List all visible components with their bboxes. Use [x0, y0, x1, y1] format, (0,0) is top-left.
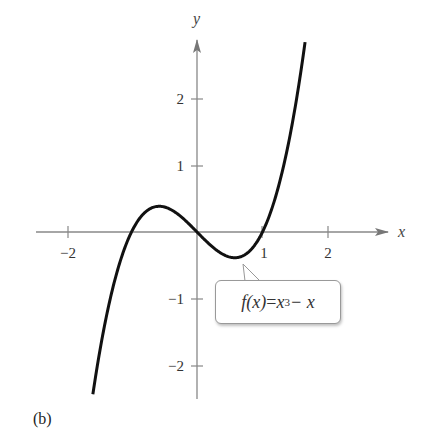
callout-rest: − x: [290, 292, 315, 313]
x-tick-label: 1: [260, 245, 268, 261]
x-tick-label: −2: [60, 245, 76, 261]
callout-lhs: f(x): [241, 292, 266, 313]
y-tick-label: −1: [168, 291, 184, 307]
y-axis-label: y: [191, 10, 201, 28]
y-tick-label: −2: [168, 358, 184, 374]
function-curve: [93, 42, 305, 394]
callout-pointer: [243, 264, 260, 281]
x-axis-label: x: [397, 223, 405, 240]
y-tick-label: 2: [177, 91, 185, 107]
function-graph: −2 1 2 2 1 −1 −2 x y: [0, 0, 429, 441]
callout-equals: =: [266, 292, 276, 313]
x-tick-label: 2: [324, 245, 332, 261]
y-tick-label: 1: [177, 158, 185, 174]
callout-base: x: [277, 292, 285, 313]
function-label-callout: f(x) = x3 − x: [215, 280, 341, 324]
panel-label: (b): [33, 410, 52, 428]
